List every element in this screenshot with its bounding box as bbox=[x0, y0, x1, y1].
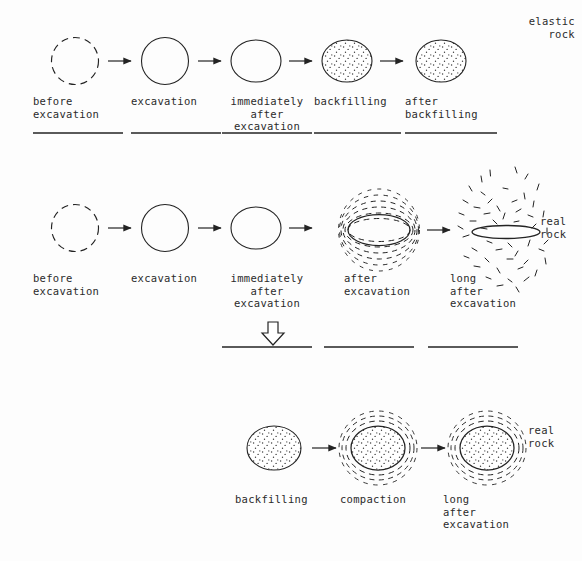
shape-stippled-ellipse-dashed-rings bbox=[448, 411, 526, 485]
row-3-shapes bbox=[247, 411, 526, 485]
stage-label-immediately-after-excavation: immediately after excavation bbox=[231, 272, 304, 310]
shape-solid-ellipse bbox=[231, 207, 281, 249]
rock-type-label-real-rock: real rock bbox=[528, 424, 555, 449]
stage-label-excavation: excavation bbox=[131, 272, 197, 285]
diagram-page: before excavation excavation immediately… bbox=[0, 0, 582, 561]
tunnel-outline bbox=[348, 215, 410, 246]
shape-solid-circle bbox=[142, 205, 189, 252]
stage-label-compaction: compaction bbox=[340, 493, 406, 506]
shape-stippled-ellipse bbox=[247, 426, 301, 470]
stage-label-backfilling: backfilling bbox=[235, 493, 308, 506]
stage-label-before-excavation: before excavation bbox=[33, 95, 99, 120]
hollow-down-arrow-icon bbox=[262, 322, 284, 345]
shape-stippled-ellipse bbox=[416, 40, 466, 82]
stage-label-long-after-excavation: long after excavation bbox=[443, 493, 509, 531]
stage-label-after-excavation: after excavation bbox=[344, 272, 410, 297]
tunnel-outline-collapsed bbox=[472, 226, 540, 239]
stage-label-long-after-excavation: long after excavation bbox=[450, 272, 516, 310]
rock-type-label-elastic-rock: elastic rock bbox=[440, 15, 575, 40]
shape-flat-ellipse-dashed-rings bbox=[339, 189, 420, 271]
stage-label-immediately-after-excavation: immediately after excavation bbox=[231, 95, 304, 133]
row-1-shapes bbox=[52, 38, 467, 85]
stage-label-before-excavation: before excavation bbox=[33, 272, 99, 297]
tunnel-outline bbox=[460, 426, 514, 470]
shape-solid-ellipse bbox=[231, 40, 281, 82]
stage-label-excavation: excavation bbox=[131, 95, 197, 108]
stage-label-backfilling: backfilling bbox=[314, 95, 387, 108]
shape-dashed-circle bbox=[52, 38, 99, 85]
stage-label-after-backfilling: after backfilling bbox=[405, 95, 478, 120]
shape-stippled-ellipse bbox=[322, 40, 372, 82]
rock-type-label-real-rock: real rock bbox=[540, 215, 567, 240]
shape-stippled-ellipse-dashed-rings bbox=[339, 411, 417, 485]
shape-dashed-circle bbox=[52, 205, 99, 252]
shape-solid-circle bbox=[142, 38, 189, 85]
tunnel-outline bbox=[351, 426, 405, 470]
